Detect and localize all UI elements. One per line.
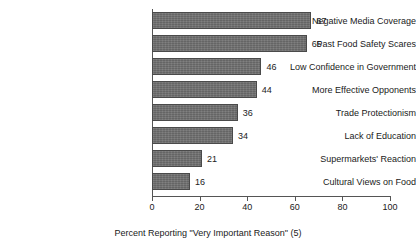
x-tick-label: 80 (337, 203, 347, 212)
x-tick-label: 0 (149, 203, 154, 212)
x-axis-line (152, 196, 391, 197)
bar-row: 34 (152, 127, 390, 144)
bar (152, 35, 307, 52)
bar-value-label: 34 (238, 131, 248, 140)
bar (152, 173, 190, 190)
bar-row: 16 (152, 173, 390, 190)
x-tick-label: 40 (242, 203, 252, 212)
bar-row: 46 (152, 58, 390, 75)
x-tick-mark (295, 197, 296, 201)
bar-row: 21 (152, 150, 390, 167)
bar-row: 36 (152, 104, 390, 121)
x-axis-title: Percent Reporting "Very Important Reason… (0, 229, 416, 238)
bar-row: 44 (152, 81, 390, 98)
bar-value-label: 46 (266, 62, 276, 71)
bar-row: 67 (152, 12, 390, 29)
bar (152, 127, 233, 144)
plot-area: 6765464436342116 (152, 12, 390, 196)
bar (152, 104, 238, 121)
bar-chart-figure: Negative Media CoveragePast Food Safety … (0, 0, 416, 252)
x-tick-label: 100 (382, 203, 397, 212)
x-tick-mark (247, 197, 248, 201)
bar-row: 65 (152, 35, 390, 52)
x-tick-mark (200, 197, 201, 201)
x-tick-mark (342, 197, 343, 201)
bar-value-label: 36 (243, 108, 253, 117)
bar (152, 150, 202, 167)
bar (152, 12, 311, 29)
x-tick-mark (390, 197, 391, 201)
x-tick-mark (152, 197, 153, 201)
bar-value-label: 65 (312, 39, 322, 48)
bar-value-label: 21 (207, 154, 217, 163)
bar-value-label: 16 (195, 177, 205, 186)
x-tick-label: 60 (290, 203, 300, 212)
bar (152, 81, 257, 98)
bar-value-label: 67 (316, 16, 326, 25)
bar (152, 58, 261, 75)
x-tick-label: 20 (195, 203, 205, 212)
bar-value-label: 44 (262, 85, 272, 94)
